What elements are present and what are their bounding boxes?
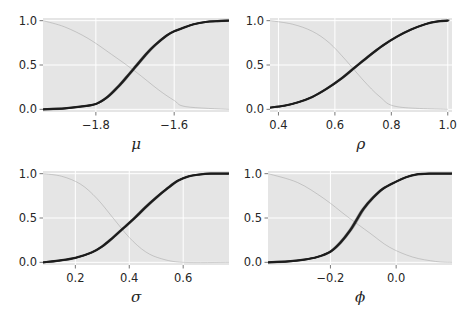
ytick-label: 1.0	[19, 14, 37, 28]
ytick-label: 1.0	[19, 167, 37, 181]
x-axis-label-rho: ρ	[356, 135, 366, 153]
ytick-label: 0.0	[19, 102, 37, 116]
subplot-sigma: 0.00.51.00.20.40.6σ	[19, 167, 231, 306]
xtick-label: 0.6	[174, 271, 192, 285]
x-axis-label-mu: μ	[131, 135, 141, 153]
ytick-label: 1.0	[244, 167, 262, 181]
x-axis-label-phi: ϕ	[355, 288, 365, 306]
x-axis-label-sigma: σ	[131, 288, 142, 306]
subplot-mu: 0.00.51.0−1.8−1.6μ	[19, 14, 231, 153]
xtick-label: 1.0	[439, 118, 457, 132]
xtick-label: 0.8	[382, 118, 400, 132]
subplot-phi: 0.00.51.0−0.20.0ϕ	[244, 167, 454, 306]
chart-canvas: 0.00.51.0−1.8−1.6μ0.00.51.00.40.60.81.0ρ…	[0, 0, 470, 313]
xtick-label: 0.2	[66, 271, 84, 285]
xtick-label: −0.2	[316, 271, 344, 285]
subplot-rho: 0.00.51.00.40.60.81.0ρ	[246, 14, 457, 153]
ytick-label: 0.0	[19, 255, 37, 269]
xtick-label: −1.8	[82, 118, 110, 132]
ytick-label: 0.5	[19, 58, 37, 72]
xtick-label: −1.6	[160, 118, 188, 132]
xtick-label: 0.6	[326, 118, 344, 132]
xtick-label: 0.0	[387, 271, 405, 285]
ytick-label: 0.5	[244, 211, 262, 225]
xtick-label: 0.4	[120, 271, 138, 285]
ytick-label: 0.5	[246, 58, 264, 72]
ytick-label: 0.0	[246, 102, 264, 116]
xtick-label: 0.4	[269, 118, 287, 132]
ytick-label: 1.0	[246, 14, 264, 28]
figure: 0.00.51.0−1.8−1.6μ0.00.51.00.40.60.81.0ρ…	[0, 0, 470, 313]
ytick-label: 0.5	[19, 211, 37, 225]
ytick-label: 0.0	[244, 255, 262, 269]
